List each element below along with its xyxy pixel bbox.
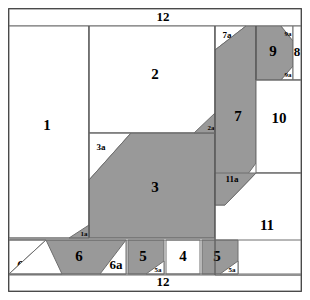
piece-11a-label: 11a — [225, 174, 239, 184]
piece-5-left-label: 5 — [139, 248, 147, 264]
piece-12-top — [9, 9, 301, 26]
piece-9a-top-label: 9a — [285, 30, 293, 38]
piece-10 — [256, 80, 301, 173]
piece-5-right-label: 5 — [213, 248, 221, 264]
piece-5a-right-label: 5a — [229, 266, 237, 274]
piece-11-label: 11 — [260, 217, 274, 233]
piece-3-label: 3 — [151, 179, 159, 195]
dissection-svg: 12 12 1 2 3a 3 2a 1a 7a 7 9 9a — [0, 0, 310, 300]
piece-6a-label: 6a — [110, 257, 124, 272]
piece-8-label: 8 — [294, 44, 301, 59]
piece-9-label: 9 — [269, 43, 277, 59]
piece-12-bottom — [9, 275, 301, 291]
piece-6-label: 6 — [75, 248, 83, 264]
piece-1a-label: 1a — [81, 230, 89, 238]
piece-5a-left-label: 5a — [155, 266, 163, 274]
piece-2-label: 2 — [151, 66, 159, 82]
dissection-figure: 12 12 1 2 3a 3 2a 1a 7a 7 9 9a — [0, 0, 310, 300]
piece-10-label: 10 — [272, 110, 287, 126]
piece-7-label: 7 — [234, 108, 242, 124]
piece-2a-label: 2a — [208, 124, 216, 132]
piece-12-bottom-label: 12 — [157, 274, 170, 289]
piece-4-label: 4 — [179, 248, 187, 264]
piece-9a-bottom-label: 9a — [285, 71, 293, 79]
piece-3a-label: 3a — [97, 142, 107, 152]
piece-12-top-label: 12 — [157, 9, 170, 24]
piece-1-label: 1 — [43, 117, 51, 133]
